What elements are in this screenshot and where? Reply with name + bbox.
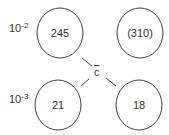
- row-label-bottom-exponent: -3: [21, 92, 28, 101]
- connector-line-bottom-left: [81, 79, 89, 86]
- center-label-c-bar: c: [94, 67, 100, 78]
- row-label-bottom: 10-3: [9, 94, 28, 105]
- row-label-top: 10-2: [9, 23, 28, 34]
- circle-value-bottom-left: 21: [36, 100, 80, 111]
- circle-value-top-left: 245: [38, 28, 82, 39]
- row-label-top-exponent: -2: [21, 21, 28, 30]
- circle-value-bottom-right: 18: [117, 100, 161, 111]
- connector-line-top-left: [82, 58, 92, 66]
- row-label-bottom-base: 10: [9, 93, 21, 105]
- dilution-diagram: 10-2 10-3 245 (310) 21 18 c: [0, 0, 169, 135]
- row-label-top-base: 10: [9, 22, 21, 34]
- connector-line-bottom-right: [106, 78, 116, 86]
- circle-value-top-right: (310): [118, 28, 162, 39]
